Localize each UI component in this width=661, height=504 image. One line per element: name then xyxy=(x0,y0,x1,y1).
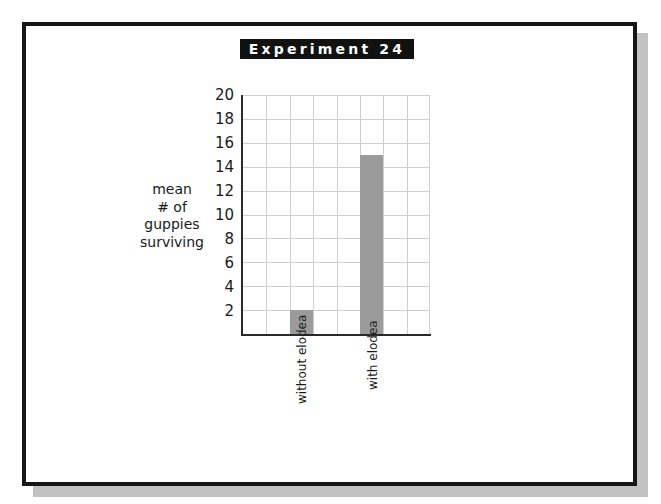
x-category-label: without elodea xyxy=(295,315,309,404)
x-category-label: with elodea xyxy=(366,320,380,390)
gridline-vertical xyxy=(266,95,267,334)
gridline-vertical xyxy=(313,95,314,334)
y-tick-label: 12 xyxy=(196,183,234,199)
bar-with-elodea xyxy=(360,155,383,334)
gridline-vertical xyxy=(407,95,408,334)
gridline-vertical xyxy=(290,95,291,334)
y-axis-line xyxy=(241,95,243,336)
y-tick-label: 20 xyxy=(196,87,234,103)
y-tick-label: 6 xyxy=(196,255,234,271)
x-axis-line xyxy=(241,334,431,336)
y-tick-label: 16 xyxy=(196,135,234,151)
y-tick-label: 18 xyxy=(196,111,234,127)
y-tick-label: 10 xyxy=(196,207,234,223)
y-tick-label: 4 xyxy=(196,279,234,295)
gridline-vertical xyxy=(337,95,338,334)
y-tick-label: 8 xyxy=(196,231,234,247)
gridline-vertical xyxy=(383,95,384,334)
y-tick-label: 2 xyxy=(196,303,234,319)
gridline-vertical xyxy=(429,95,430,334)
plot-area xyxy=(243,95,430,334)
chart-title: Experiment 24 xyxy=(240,39,414,59)
y-tick-label: 14 xyxy=(196,159,234,175)
